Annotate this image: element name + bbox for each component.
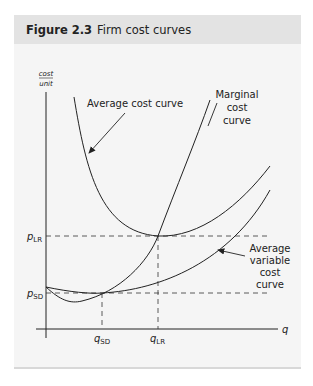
x-label: q — [282, 324, 288, 335]
y-label-bottom: unit — [39, 80, 53, 88]
marginal-label-1: Marginal — [215, 89, 258, 100]
y-label-top: cost — [39, 70, 54, 78]
avc-label-3: cost — [260, 267, 281, 278]
avc-label-4: curve — [256, 279, 284, 290]
avc-label-1: Average — [249, 243, 290, 254]
marginal-label-3: curve — [223, 115, 251, 126]
avc-label-2: variable — [250, 255, 290, 266]
average-cost-pointer — [89, 113, 125, 153]
p-sd-tick: pSD — [26, 288, 43, 301]
q-sd-tick: qSD — [94, 333, 110, 346]
p-lr-tick: pLR — [26, 231, 42, 244]
average-variable-cost-curve — [46, 190, 270, 293]
avc-pointer — [218, 250, 245, 256]
cost-curves-diagram: cost unit q Average cost curve Marginal … — [0, 0, 313, 386]
marginal-label-2: cost — [227, 102, 248, 113]
q-lr-tick: qLR — [150, 333, 165, 346]
marginal-pointer — [208, 103, 217, 126]
average-cost-label: Average cost curve — [87, 98, 183, 109]
